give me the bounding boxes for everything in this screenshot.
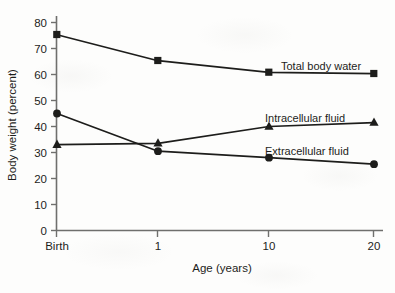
data-point-marker: [265, 69, 272, 76]
data-point-marker: [370, 70, 377, 77]
data-point-marker: [52, 140, 61, 148]
x-tick-label-20: 20: [368, 240, 381, 252]
y-tick-label-40: 40: [34, 121, 47, 133]
y-tick-label-50: 50: [34, 95, 47, 107]
y-tick-label-70: 70: [34, 43, 47, 55]
y-tick-label-10: 10: [34, 199, 47, 211]
data-point-marker: [154, 147, 162, 155]
x-tick-label-10: 10: [263, 240, 276, 252]
series-label-extracellular-fluid: Extracellular fluid: [265, 145, 349, 157]
data-point-marker: [53, 110, 61, 118]
line-chart: 0 10 20 30 40 50 60 70 80 Birth 1 10 20 …: [0, 0, 395, 293]
y-tick-label-0: 0: [41, 225, 47, 237]
y-axis-tick-labels: 0 10 20 30 40 50 60 70 80: [34, 17, 47, 237]
series-label-intracellular-fluid: Intracellular fluid: [265, 112, 345, 124]
data-point-marker: [154, 57, 161, 64]
y-tick-label-30: 30: [34, 147, 47, 159]
series-line: [57, 123, 374, 145]
data-point-marker: [53, 31, 60, 38]
series-total-body-water: Total body water: [53, 31, 377, 77]
data-point-marker: [370, 160, 378, 168]
y-tick-label-20: 20: [34, 173, 47, 185]
series-label-total-body-water: Total body water: [281, 60, 361, 72]
y-tick-label-80: 80: [34, 17, 47, 29]
y-axis-ticks: [51, 23, 56, 231]
chart-page: 0 10 20 30 40 50 60 70 80 Birth 1 10 20 …: [0, 0, 395, 293]
x-axis-title: Age (years): [192, 262, 252, 274]
y-axis-title: Body weight (percent): [6, 69, 18, 181]
x-tick-label-birth: Birth: [45, 240, 69, 252]
data-point-marker: [369, 118, 378, 126]
y-tick-label-60: 60: [34, 69, 47, 81]
x-axis-tick-labels: Birth 1 10 20: [45, 240, 380, 252]
x-tick-label-1: 1: [155, 240, 161, 252]
x-axis-ticks: [57, 231, 374, 238]
